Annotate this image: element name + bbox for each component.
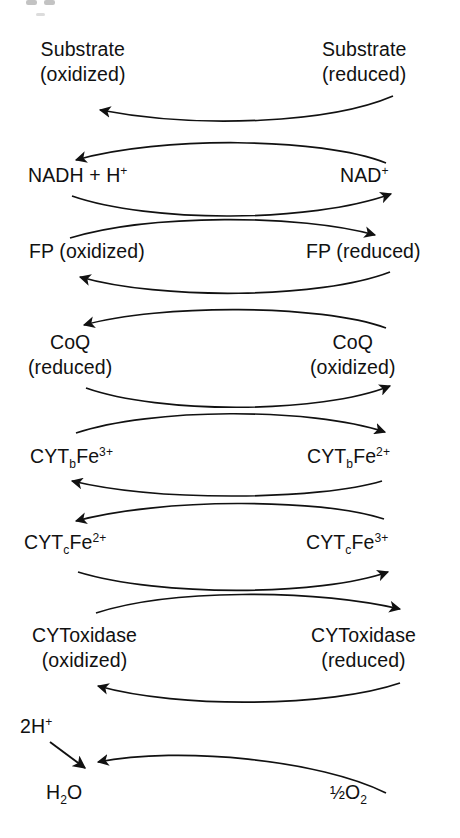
- cytc-right-tail: Fe: [351, 531, 374, 553]
- water-tail: O: [67, 781, 82, 803]
- cytoxidase-oxidized-line2: (oxidized): [32, 648, 137, 673]
- nad-text: NAD: [340, 164, 381, 186]
- water-main: H: [46, 781, 60, 803]
- cytoxidase-reduced-line2: (reduced): [311, 648, 416, 673]
- label-half-oxygen: ½O2: [330, 780, 367, 806]
- nadh-charge: +: [120, 164, 127, 178]
- cytc-left-main: CYT: [24, 531, 63, 553]
- water-sub: 2: [60, 793, 67, 807]
- cytc-left-sup: 2+: [92, 531, 106, 545]
- arrow-nad-to-nadh: [76, 143, 386, 163]
- label-coq-oxidized: CoQ (oxidized): [310, 330, 396, 380]
- label-cytc-fe2: CYTcFe2+: [24, 530, 106, 555]
- arrow-layer: [0, 0, 460, 838]
- substrate-reduced-line2: (reduced): [322, 62, 406, 87]
- oxygen-fraction: ½: [330, 783, 345, 803]
- label-cytb-fe2: CYTbFe2+: [307, 444, 390, 469]
- cytb-right-tail: Fe: [353, 445, 376, 467]
- label-cytc-fe3: CYTcFe3+: [306, 530, 388, 555]
- label-nad: NAD+: [340, 163, 389, 188]
- label-two-protons: 2H+: [20, 714, 52, 739]
- electron-transport-chain-figure: Substrate (oxidized) Substrate (reduced)…: [0, 0, 460, 838]
- cytb-left-main: CYT: [30, 445, 69, 467]
- nad-charge: +: [381, 164, 388, 178]
- fp-reduced-text: FP (reduced): [306, 240, 421, 262]
- cytb-right-sup: 2+: [376, 445, 390, 459]
- cytoxidase-oxidized-line1: CYToxidase: [32, 623, 137, 648]
- top-edge-artifact-2: [44, 0, 55, 5]
- arrow-coq-oxidized-to-reduced: [84, 310, 386, 328]
- arrow-protons-to-water: [50, 742, 85, 768]
- arrow-cytc-fe2-to-fe3: [78, 572, 388, 590]
- proton-main: 2H: [20, 715, 45, 737]
- cytoxidase-reduced-line1: CYToxidase: [311, 623, 416, 648]
- arrow-substrate-reduced-to-oxidized: [100, 96, 393, 121]
- nadh-text: NADH + H: [28, 164, 120, 186]
- cytb-left-sup: 3+: [99, 445, 113, 459]
- label-cytb-fe3: CYTbFe3+: [30, 444, 113, 469]
- label-substrate-reduced: Substrate (reduced): [322, 37, 406, 87]
- top-edge-artifact: [26, 0, 37, 5]
- label-water: H2O: [46, 780, 82, 805]
- coq-oxidized-line2: (oxidized): [310, 355, 396, 380]
- substrate-reduced-line1: Substrate: [322, 37, 406, 62]
- label-substrate-oxidized: Substrate (oxidized): [40, 37, 126, 87]
- coq-oxidized-line1: CoQ: [310, 330, 396, 355]
- cytb-left-tail: Fe: [76, 445, 99, 467]
- arrow-cytb-fe3-to-fe2: [76, 414, 385, 433]
- arrow-fp-reduced-to-oxidized: [80, 272, 390, 293]
- label-fp-oxidized: FP (oxidized): [29, 239, 145, 264]
- arrow-fp-oxidized-to-reduced: [70, 220, 375, 238]
- label-fp-reduced: FP (reduced): [306, 239, 421, 264]
- label-nadh: NADH + H+: [28, 163, 128, 188]
- arrow-nadh-to-nad: [72, 194, 391, 216]
- oxygen-main: O: [345, 781, 360, 803]
- cytc-right-sup: 3+: [374, 531, 388, 545]
- cytb-right-main: CYT: [307, 445, 346, 467]
- substrate-oxidized-line1: Substrate: [40, 37, 126, 62]
- fp-oxidized-text: FP (oxidized): [29, 240, 145, 262]
- arrow-cytc-fe3-to-fe2: [76, 503, 384, 521]
- arrow-coq-reduced-to-oxidized: [86, 386, 390, 407]
- top-edge-artifact-3: [36, 13, 45, 16]
- substrate-oxidized-line2: (oxidized): [40, 62, 126, 87]
- arrow-cytoxidase-reduced-to-oxidized: [98, 683, 400, 702]
- proton-charge: +: [45, 715, 52, 729]
- coq-reduced-line1: CoQ: [28, 330, 112, 355]
- label-cytoxidase-reduced: CYToxidase (reduced): [311, 623, 416, 673]
- arrow-cytb-fe2-to-fe3: [72, 481, 382, 496]
- cytc-right-main: CYT: [306, 531, 345, 553]
- label-cytoxidase-oxidized: CYToxidase (oxidized): [32, 623, 137, 673]
- cytc-left-tail: Fe: [69, 531, 92, 553]
- arrow-cytoxidase-oxidized-to-reduced: [96, 594, 400, 613]
- label-coq-reduced: CoQ (reduced): [28, 330, 112, 380]
- oxygen-sub: 2: [360, 793, 367, 807]
- coq-reduced-line2: (reduced): [28, 355, 112, 380]
